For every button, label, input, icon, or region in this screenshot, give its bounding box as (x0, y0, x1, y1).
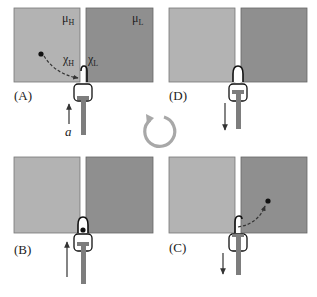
panel-label-c: (C) (169, 240, 186, 255)
panel-a: μH μL χH χL a (A) (14, 8, 153, 139)
panel-c: (C) (169, 157, 307, 275)
low-reservoir (241, 157, 307, 233)
panel-label-a: (A) (14, 88, 32, 103)
particle (80, 227, 85, 232)
cycle-arrow-icon (145, 114, 175, 146)
particle (38, 51, 43, 56)
high-reservoir (14, 157, 80, 233)
diagram-canvas: μH μL χH χL a (A) (D) (0, 0, 317, 297)
piston-rod (236, 237, 241, 275)
panel-label-d: (D) (169, 88, 187, 103)
panel-b: (B) (14, 157, 153, 284)
low-reservoir (241, 8, 307, 82)
piston-head (232, 90, 244, 94)
piston-head (77, 96, 89, 100)
high-reservoir (169, 157, 235, 233)
high-reservoir (169, 8, 235, 82)
particle (265, 198, 270, 203)
force-label-a: a (65, 124, 72, 139)
panel-d: (D) (169, 8, 307, 130)
panel-label-b: (B) (14, 242, 31, 257)
low-reservoir (86, 157, 153, 233)
gate-cap (233, 66, 243, 82)
piston-rod (81, 100, 86, 135)
piston-rod (81, 246, 86, 284)
piston-head (232, 234, 244, 237)
piston-head (77, 242, 89, 246)
piston-rod (236, 94, 241, 129)
